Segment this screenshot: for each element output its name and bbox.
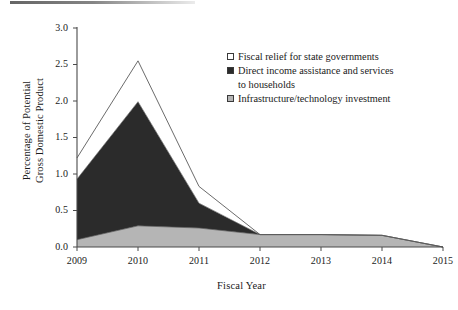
x-tick-label: 2011 <box>177 255 221 266</box>
area-band-1 <box>77 102 443 247</box>
x-tick-label: 2009 <box>55 255 99 266</box>
legend-label: Fiscal relief for state governments <box>238 50 449 64</box>
legend-swatch-dark-icon <box>227 67 234 74</box>
x-tick-label: 2010 <box>116 255 160 266</box>
x-tick-label: 2012 <box>238 255 282 266</box>
chart-legend: Fiscal relief for state governments Dire… <box>227 50 449 106</box>
x-axis-title: Fiscal Year <box>0 280 451 291</box>
legend-swatch-white-icon <box>227 53 234 60</box>
x-tick-label: 2015 <box>421 255 458 266</box>
x-tick-label: 2013 <box>299 255 343 266</box>
legend-label-group: Direct income assistance and services to… <box>238 64 449 91</box>
legend-swatch-gray-icon <box>227 95 234 102</box>
legend-label: Direct income assistance and services <box>238 65 394 76</box>
legend-item-infrastructure: Infrastructure/technology investment <box>227 92 449 106</box>
legend-label: Infrastructure/technology investment <box>238 92 449 106</box>
x-tick-label: 2014 <box>360 255 404 266</box>
x-axis-title-text: Fiscal Year <box>185 280 266 291</box>
legend-item-fiscal-relief: Fiscal relief for state governments <box>227 50 449 64</box>
legend-label-continuation: to households <box>238 78 449 92</box>
legend-item-direct-income: Direct income assistance and services to… <box>227 64 449 91</box>
y-axis-title: Percentage of Potential Gross Domestic P… <box>21 21 46 241</box>
y-tick-label: 0.0 <box>34 241 68 252</box>
